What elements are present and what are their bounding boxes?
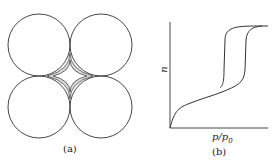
x-label-text: p/p bbox=[212, 131, 228, 142]
desorption-curve bbox=[220, 26, 262, 88]
sphere-top-left bbox=[8, 14, 70, 76]
caption-b: (b) bbox=[212, 146, 226, 157]
sphere-top-right bbox=[70, 14, 132, 76]
figure bbox=[0, 0, 276, 167]
caption-a: (a) bbox=[63, 143, 77, 154]
x-label-sub: 0 bbox=[228, 137, 232, 145]
adsorption-curve bbox=[170, 26, 268, 128]
sphere-bottom-right bbox=[70, 76, 132, 138]
y-axis-label: n bbox=[158, 66, 169, 72]
x-axis-label: p/p0 bbox=[212, 131, 233, 145]
sphere-bottom-left bbox=[8, 76, 70, 138]
